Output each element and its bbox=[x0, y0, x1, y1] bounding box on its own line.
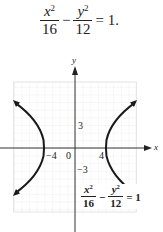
tick-label-neg4: −4 bbox=[46, 151, 57, 161]
equals-one: = 1 bbox=[123, 191, 144, 203]
tick-label-origin: 0 bbox=[66, 151, 71, 161]
tick-label-neg3: −3 bbox=[77, 165, 88, 175]
x-axis-label: x bbox=[154, 143, 158, 152]
y-axis-arrow-icon bbox=[72, 66, 78, 75]
x-axis-arrow-icon bbox=[144, 145, 152, 151]
y-fraction: y2 12 bbox=[108, 184, 123, 209]
y-axis-label: y bbox=[72, 56, 76, 65]
tick-label-pos4: 4 bbox=[99, 151, 104, 161]
graph-equation-label: x2 16 − y2 12 = 1 bbox=[80, 184, 145, 209]
tick-label-pos3: 3 bbox=[78, 121, 83, 131]
minus-sign: − bbox=[96, 191, 108, 203]
x-fraction: x2 16 bbox=[81, 184, 96, 209]
